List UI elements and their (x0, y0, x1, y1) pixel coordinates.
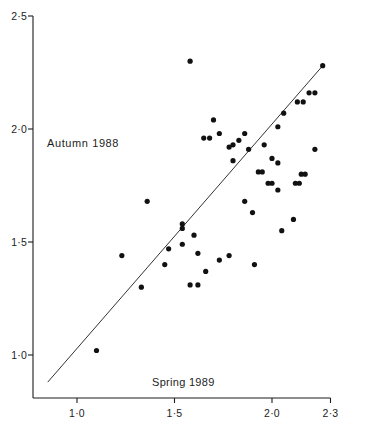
x-tick-label: 2·3 (311, 407, 351, 419)
y-tick-label: 2·5 (0, 10, 27, 22)
x-tick-label: 1·0 (57, 407, 97, 419)
scatter-point (145, 199, 150, 204)
scatter-point (217, 131, 222, 136)
scatter-point (260, 169, 265, 174)
scatter-point (281, 111, 286, 116)
scatter-point (139, 285, 144, 290)
scatter-point (217, 257, 222, 262)
plot-canvas (0, 0, 378, 430)
scatter-point (269, 181, 274, 186)
scatter-point (94, 348, 99, 353)
scatter-point (262, 142, 267, 147)
scatter-point (180, 242, 185, 247)
x-tick-label: 2·0 (252, 407, 292, 419)
scatter-point (252, 262, 257, 267)
scatter-point (242, 199, 247, 204)
scatter-point (242, 131, 247, 136)
y-tick-label: 1·0 (0, 349, 27, 361)
scatter-point (297, 181, 302, 186)
scatter-point (191, 233, 196, 238)
scatter-point (230, 142, 235, 147)
y-tick-label: 1·5 (0, 236, 27, 248)
scatter-point (306, 90, 311, 95)
scatter-point (188, 59, 193, 64)
scatter-point (119, 253, 124, 258)
scatter-point (291, 217, 296, 222)
scatter-point (188, 282, 193, 287)
scatter-point (301, 99, 306, 104)
scatter-point (275, 160, 280, 165)
y-axis-series-label: Autumn 1988 (47, 137, 119, 149)
scatter-point (312, 90, 317, 95)
scatter-point (236, 138, 241, 143)
scatter-point (227, 253, 232, 258)
scatter-point (166, 246, 171, 251)
scatter-point (303, 172, 308, 177)
scatter-point (211, 117, 216, 122)
scatter-point (201, 135, 206, 140)
scatter-point (230, 158, 235, 163)
scatter-point (195, 251, 200, 256)
scatter-point (269, 156, 274, 161)
y-tick-label: 2·0 (0, 123, 27, 135)
scatter-plot-figure: Autumn 1988 Spring 1989 1·01·52·02·51·01… (0, 0, 378, 430)
scatter-point (162, 262, 167, 267)
scatter-point (246, 147, 251, 152)
scatter-point (312, 147, 317, 152)
scatter-point (250, 210, 255, 215)
scatter-point (180, 221, 185, 226)
x-axis-series-label: Spring 1989 (152, 376, 215, 388)
scatter-point (295, 99, 300, 104)
scatter-point (207, 135, 212, 140)
axes (28, 16, 331, 403)
scatter-point (195, 282, 200, 287)
scatter-point (279, 228, 284, 233)
scatter-point (320, 63, 325, 68)
x-tick-label: 1·5 (155, 407, 195, 419)
scatter-point (180, 226, 185, 231)
scatter-point (203, 269, 208, 274)
scatter-point (275, 124, 280, 129)
scatter-point (275, 187, 280, 192)
